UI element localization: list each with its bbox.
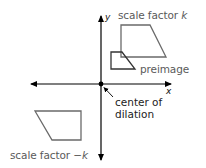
center-of-dilation-point (99, 82, 104, 87)
scale-factor-k-label: scale factor k (118, 10, 187, 21)
preimage-label: preimage (140, 64, 189, 75)
scale-factor-neg-k-label: scale factor −k (10, 150, 88, 161)
scale-factor-neg-k-var: k (82, 149, 88, 161)
preimage-trapezoid (111, 52, 135, 69)
scale-factor-k-prefix: scale factor (118, 9, 181, 21)
image-scale-neg-k-trapezoid (35, 111, 81, 140)
scale-factor-k-var: k (181, 9, 187, 21)
center-of-dilation-label-line1: center of (115, 97, 162, 108)
center-pointer-arrow (104, 88, 113, 98)
y-axis-label: y (105, 13, 110, 22)
center-of-dilation-label-line2: dilation (115, 109, 154, 120)
scale-factor-neg-k-prefix: scale factor − (10, 149, 82, 161)
dilation-diagram (0, 0, 206, 168)
image-scale-k-trapezoid (121, 25, 166, 57)
x-axis-label: x (166, 87, 171, 96)
